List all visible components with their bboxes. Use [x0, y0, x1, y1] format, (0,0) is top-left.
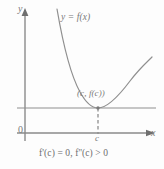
function-label: y = f(x) [61, 13, 90, 23]
minimum-point-dot [96, 106, 99, 109]
x-tick-label-c: c [95, 134, 99, 143]
calculus-figure: y x 0 c y = f(x) (c, f(c)) f'(c) = 0, f'… [0, 0, 164, 169]
minimum-point-label: (c, f(c)) [77, 89, 105, 98]
origin-label: 0 [18, 125, 23, 135]
condition-caption: f'(c) = 0, f''(c) > 0 [39, 149, 108, 159]
x-axis-label: x [151, 128, 156, 138]
graph-canvas [0, 0, 164, 169]
y-axis-label: y [18, 4, 23, 14]
